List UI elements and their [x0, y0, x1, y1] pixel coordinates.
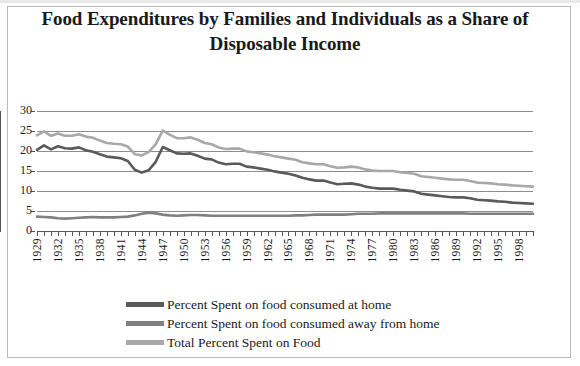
x-axis-tick-label: 1962: [262, 238, 274, 263]
x-axis-tick: [526, 232, 527, 236]
x-axis-tick: [72, 232, 73, 236]
chart-title: Food Expenditures by Families and Indivi…: [40, 6, 530, 56]
y-axis-tick-label: 30: [6, 103, 32, 118]
x-axis-tick-label: 1977: [366, 238, 378, 263]
x-axis-tick: [337, 232, 338, 236]
x-axis-ticks: [37, 232, 534, 237]
legend-item[interactable]: Percent Spent on food consumed at home: [126, 295, 526, 314]
x-axis-tick: [421, 232, 422, 236]
legend-label: Total Percent Spent on Food: [167, 335, 321, 351]
x-axis-tick: [442, 232, 443, 236]
x-axis-tick: [449, 232, 450, 236]
y-axis-tick-label: 25: [6, 123, 32, 138]
legend-color-swatch: [126, 302, 164, 307]
x-axis-tick-label: 1956: [220, 238, 232, 263]
x-axis-tick: [198, 232, 199, 236]
x-axis-tick: [79, 232, 80, 236]
x-axis-tick: [170, 232, 171, 236]
x-axis-tick: [128, 232, 129, 236]
x-axis-tick-label: 1935: [73, 238, 85, 263]
x-axis-tick: [114, 232, 115, 236]
y-axis-line: [0, 111, 1, 232]
x-axis-tick: [316, 232, 317, 236]
x-axis-tick: [295, 232, 296, 236]
x-axis-tick: [533, 232, 534, 236]
x-axis-tick: [435, 232, 436, 236]
x-axis-tick: [379, 232, 380, 236]
x-axis-tick: [407, 232, 408, 236]
x-axis-tick: [519, 232, 520, 236]
x-axis-tick: [149, 232, 150, 236]
x-axis-tick: [372, 232, 373, 236]
x-axis-tick-label: 1944: [136, 238, 148, 263]
y-axis-tick-label: 5: [6, 203, 32, 218]
x-axis-tick: [351, 232, 352, 236]
x-axis-tick-label: 1992: [471, 238, 483, 263]
x-axis-tick-label: 1989: [450, 238, 462, 263]
legend-label: Percent Spent on food consumed at home: [167, 297, 391, 313]
x-axis-tick-label: 1998: [513, 238, 525, 263]
legend-item[interactable]: Total Percent Spent on Food: [126, 333, 526, 352]
x-axis-tick-label: 1980: [387, 238, 399, 263]
x-axis-tick: [477, 232, 478, 236]
legend-item[interactable]: Percent Spent on food consumed away from…: [126, 314, 526, 333]
x-axis-tick: [184, 232, 185, 236]
x-axis-tick: [275, 232, 276, 236]
x-axis-tick: [323, 232, 324, 236]
x-axis-tick: [58, 232, 59, 236]
x-axis-tick: [233, 232, 234, 236]
x-axis-tick: [456, 232, 457, 236]
x-axis-tick: [51, 232, 52, 236]
y-axis-labels: 051015202530: [4, 111, 32, 231]
x-axis-tick-label: 1968: [303, 238, 315, 263]
x-axis-tick: [44, 232, 45, 236]
x-axis-tick: [254, 232, 255, 236]
x-axis-tick: [505, 232, 506, 236]
y-axis-tick-label: 0: [6, 223, 32, 238]
y-axis-tick-label: 20: [6, 143, 32, 158]
x-axis-tick-label: 1950: [178, 238, 190, 263]
x-axis-tick-label: 1953: [199, 238, 211, 263]
x-axis-tick: [463, 232, 464, 236]
x-axis-tick: [247, 232, 248, 236]
x-axis-tick: [393, 232, 394, 236]
x-axis-labels: 1929193219351938194119441947195019531956…: [37, 238, 534, 284]
series-line: [37, 213, 533, 219]
x-axis-tick-label: 1971: [324, 238, 336, 263]
x-axis-tick-label: 1995: [492, 238, 504, 263]
y-axis-tick-label: 10: [6, 183, 32, 198]
x-axis-tick: [302, 232, 303, 236]
x-axis-tick-label: 1941: [115, 238, 127, 263]
x-axis-tick: [428, 232, 429, 236]
x-axis-tick: [191, 232, 192, 236]
x-axis-tick-label: 1959: [241, 238, 253, 263]
x-axis-tick: [121, 232, 122, 236]
x-axis-tick: [365, 232, 366, 236]
chart-legend: Percent Spent on food consumed at homePe…: [126, 295, 526, 352]
x-axis-tick: [219, 232, 220, 236]
x-axis-tick: [414, 232, 415, 236]
x-axis-tick: [100, 232, 101, 236]
x-axis-tick: [86, 232, 87, 236]
series-line: [37, 145, 533, 203]
x-axis-tick: [156, 232, 157, 236]
x-axis-tick: [107, 232, 108, 236]
x-axis-tick: [491, 232, 492, 236]
x-axis-tick: [261, 232, 262, 236]
x-axis-tick-label: 1947: [157, 238, 169, 263]
x-axis-tick: [358, 232, 359, 236]
x-axis-tick: [288, 232, 289, 236]
x-axis-tick-label: 1929: [31, 238, 43, 263]
series-lines: [37, 111, 533, 231]
x-axis-tick-label: 1932: [52, 238, 64, 263]
x-axis-tick: [240, 232, 241, 236]
x-axis-tick: [205, 232, 206, 236]
x-axis-tick: [309, 232, 310, 236]
chart-page: Food Expenditures by Families and Indivi…: [0, 0, 580, 366]
legend-label: Percent Spent on food consumed away from…: [167, 316, 440, 332]
x-axis-tick: [65, 232, 66, 236]
x-axis-tick: [135, 232, 136, 236]
plot-area: [37, 111, 533, 231]
x-axis-tick: [163, 232, 164, 236]
x-axis-tick: [142, 232, 143, 236]
